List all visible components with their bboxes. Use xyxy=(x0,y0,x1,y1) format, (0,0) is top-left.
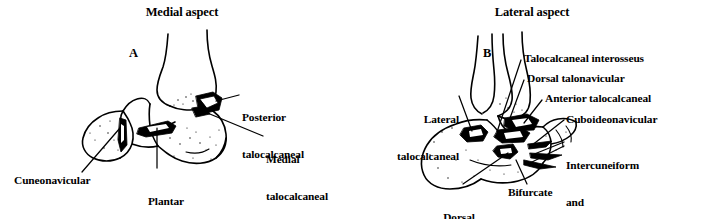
fibula-outline-lateral xyxy=(471,36,482,114)
calcaneus-inner-contour xyxy=(186,149,209,153)
label-lateral-talocalcaneal: Lateral talocalcaneal xyxy=(355,88,459,187)
label-dorsal-calcaneocuboid: Dorsal calcaneocuboid xyxy=(404,186,514,219)
label-cuboideonavicular: Cuboideonavicular xyxy=(566,113,657,125)
label-line: Plantar xyxy=(86,195,246,207)
panel-a-letter: A xyxy=(129,47,138,61)
ligament-bifurcate-highlight xyxy=(500,148,512,154)
navicular-talus-joint xyxy=(132,144,158,147)
label-line: Intercuneiform xyxy=(566,159,639,171)
label-line: Medial xyxy=(266,153,328,165)
leader-lateral-talocalcaneal xyxy=(459,96,472,131)
leader-cuneonavicular xyxy=(82,128,120,172)
label-line: Dorsal xyxy=(404,211,514,219)
panel-a-title: Medial aspect xyxy=(116,6,248,20)
leader-dorsal-calcaneocuboid xyxy=(463,153,508,184)
label-line: and xyxy=(566,196,639,208)
label-talocalcaneal-interosseus: Talocalcaneal interosseus xyxy=(524,52,644,64)
ligament-cuneocuboid xyxy=(524,160,556,169)
anatomy-figure: Medial aspect A Posterior talocalcaneal … xyxy=(0,0,705,219)
panel-b-letter: B xyxy=(483,47,491,61)
label-medial-talocalcaneal: Medial talocalcaneal xyxy=(266,128,328,219)
ligament-cuneonavicular-highlight xyxy=(121,124,124,143)
panel-b-title: Lateral aspect xyxy=(466,6,598,20)
label-plantar-calcaneonavicular: Plantar calcaneonavicular (spring ligmen… xyxy=(86,170,246,219)
label-line: Posterior xyxy=(242,111,304,123)
label-anterior-talocalcaneal: Anterior talocalcaneal xyxy=(545,92,651,104)
label-line: talocalcaneal xyxy=(266,190,328,202)
tibia-outline-medial xyxy=(157,34,170,106)
label-line: talocalcaneal xyxy=(355,150,459,162)
label-line: Lateral xyxy=(355,113,459,125)
label-intercuneiform-and-cuneocuboid: Intercuneiform and cuneocuboid xyxy=(566,134,639,219)
label-bifurcate: Bifurcate xyxy=(508,186,552,198)
panel-b-ligaments xyxy=(460,114,562,169)
label-cuneonavicular: Cuneonavicular xyxy=(14,174,90,186)
cuneiform-outline-medial xyxy=(82,111,123,161)
label-dorsal-talonavicular: Dorsal talonavicular xyxy=(527,72,625,84)
